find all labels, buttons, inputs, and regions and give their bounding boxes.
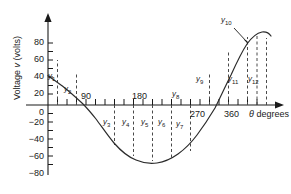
ordinate-label-y9: y9 [196, 75, 203, 85]
y10-leader-arrow [234, 28, 248, 45]
y-tick-label-minus-20: −20 [14, 118, 44, 127]
y-tick-label-0: 0 [20, 108, 44, 117]
ordinate-label-y3: y3 [103, 118, 110, 128]
ordinate-label-y6: y6 [158, 118, 165, 128]
ordinate-label-y8: y8 [172, 90, 179, 100]
x-tick-label-270: 270 [190, 110, 205, 119]
sine-wave-chart-figure: Voltage v (volts) 80 60 40 20 0 −20 −40 … [0, 0, 291, 194]
y-tick-label-20: 20 [20, 89, 44, 98]
y-tick-label-minus-40: −40 [14, 135, 44, 144]
ordinate-label-y7: y7 [176, 120, 183, 130]
x-tick-label-360: 360 [224, 110, 239, 119]
y-tick-label-40: 40 [20, 72, 44, 81]
y-tick-label-80: 80 [20, 38, 44, 47]
x-axis [26, 101, 284, 108]
ordinate-label-y12: y12 [248, 75, 259, 85]
x-tick-label-180: 180 [132, 92, 147, 101]
ordinate-label-y5: y5 [141, 118, 148, 128]
ordinate-label-y4: y4 [122, 118, 129, 128]
ordinate-label-y11: y11 [228, 75, 238, 85]
ordinate-label-y2: y2 [64, 85, 71, 95]
y-tick-label-minus-80: −80 [14, 169, 44, 178]
y-tick-label-minus-60: −60 [14, 152, 44, 161]
x-tick-label-90: 90 [81, 92, 91, 101]
x-axis-title: θ degrees [249, 110, 289, 119]
x-axis-title-tail: degrees [254, 109, 289, 119]
y-axis-ticks [48, 43, 53, 165]
ordinate-label-y10: y10 [221, 16, 232, 26]
y-tick-label-60: 60 [20, 55, 44, 64]
ordinate-label-y1: y1 [48, 72, 55, 82]
